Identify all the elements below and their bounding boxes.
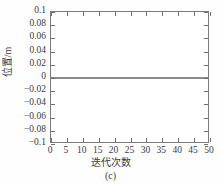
x-axis-tick xyxy=(131,138,132,142)
y-axis-tick xyxy=(51,65,55,66)
x-axis-tick-label: 20 xyxy=(109,146,119,156)
plot-area xyxy=(50,11,209,143)
y-axis-tick xyxy=(204,12,208,13)
x-axis-tick xyxy=(83,138,84,142)
y-axis-tick xyxy=(51,91,55,92)
x-axis-tick-label: 25 xyxy=(125,146,135,156)
y-axis-tick xyxy=(204,38,208,39)
x-axis-tick xyxy=(178,12,179,16)
x-axis-tick xyxy=(131,12,132,16)
x-axis-tick-label: 30 xyxy=(141,146,151,156)
y-axis-tick-label: 0.06 xyxy=(29,32,46,42)
y-axis-tick xyxy=(204,118,208,119)
x-axis-tick-label: 10 xyxy=(77,146,87,156)
y-axis-tick-label: 0.04 xyxy=(29,46,46,56)
x-axis-tick xyxy=(178,138,179,142)
x-axis-title: 迭代次数 xyxy=(0,157,221,168)
y-axis-tick xyxy=(204,65,208,66)
figure-caption: (c) xyxy=(0,170,221,181)
y-axis-tick xyxy=(204,52,208,53)
x-axis-tick-label: 45 xyxy=(188,146,198,156)
data-line xyxy=(51,77,208,79)
y-axis-tick xyxy=(51,131,55,132)
x-axis-tick xyxy=(67,138,68,142)
x-axis-tick-label: 50 xyxy=(204,146,214,156)
x-axis-tick-label: 40 xyxy=(172,146,182,156)
x-axis-tick-label: 5 xyxy=(64,146,69,156)
x-axis-tick xyxy=(210,138,211,142)
x-axis-tick xyxy=(51,138,52,142)
x-axis-tick xyxy=(146,12,147,16)
x-axis-tick xyxy=(115,12,116,16)
y-axis-tick xyxy=(204,25,208,26)
x-axis-tick xyxy=(115,138,116,142)
y-axis-tick xyxy=(51,12,55,13)
y-axis-tick xyxy=(51,118,55,119)
x-axis-tick xyxy=(99,12,100,16)
y-axis-tick xyxy=(204,131,208,132)
y-axis-tick xyxy=(204,78,208,79)
y-axis-tick-label: −0.1 xyxy=(29,138,46,148)
y-axis-tick xyxy=(204,91,208,92)
x-axis-tick xyxy=(67,12,68,16)
x-axis-tick xyxy=(99,138,100,142)
y-axis-tick xyxy=(204,104,208,105)
y-axis-title: 位置/m xyxy=(3,32,13,92)
x-axis-tick xyxy=(194,12,195,16)
x-axis-tick xyxy=(146,138,147,142)
y-axis-tick-label: 0.02 xyxy=(29,59,46,69)
x-axis-tick-label: 35 xyxy=(157,146,167,156)
y-axis-tick xyxy=(51,25,55,26)
x-axis-tick xyxy=(83,12,84,16)
x-axis-tick xyxy=(162,138,163,142)
y-axis-tick xyxy=(51,38,55,39)
x-axis-tick-label: 15 xyxy=(93,146,103,156)
figure-panel: −0.1−0.08−0.06−0.04−0.0200.020.040.060.0… xyxy=(0,0,221,185)
y-axis-tick-label: 0.1 xyxy=(34,6,46,16)
y-axis-tick xyxy=(51,78,55,79)
x-axis-tick xyxy=(162,12,163,16)
y-axis-tick-label: −0.08 xyxy=(24,125,46,135)
y-axis-tick-label: −0.06 xyxy=(24,112,46,122)
y-axis-tick-label: −0.04 xyxy=(24,98,46,108)
x-axis-tick xyxy=(194,138,195,142)
x-axis-tick xyxy=(210,12,211,16)
series-layer xyxy=(51,12,208,142)
y-axis-tick-label: 0 xyxy=(41,72,46,82)
y-axis-tick xyxy=(51,52,55,53)
y-axis-tick xyxy=(51,104,55,105)
y-axis-tick-label: −0.02 xyxy=(24,85,46,95)
x-axis-tick-label: 0 xyxy=(48,146,53,156)
y-axis-tick-label: 0.08 xyxy=(29,19,46,29)
